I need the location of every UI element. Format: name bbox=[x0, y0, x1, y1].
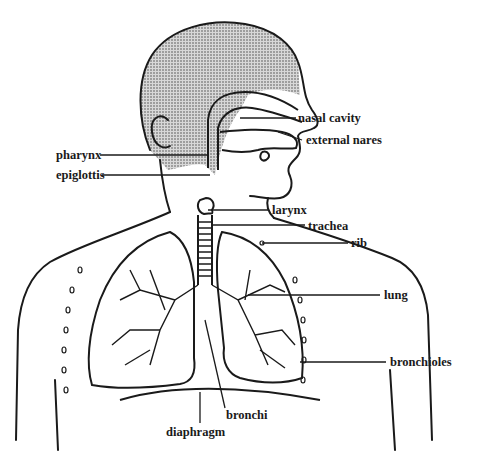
diaphragm bbox=[120, 389, 320, 400]
respiratory-diagram bbox=[0, 0, 486, 466]
lungs bbox=[89, 232, 303, 388]
label-rib: rib bbox=[351, 237, 367, 250]
label-pharynx: pharynx bbox=[56, 149, 101, 162]
label-diaphragm: diaphragm bbox=[166, 426, 225, 439]
label-epiglottis: epiglottis bbox=[56, 169, 105, 182]
trachea bbox=[198, 198, 214, 285]
label-external-nares: external nares bbox=[306, 134, 382, 147]
label-nasal-cavity: nasal cavity bbox=[298, 112, 361, 125]
label-bronchi: bronchi bbox=[226, 409, 267, 422]
label-lung: lung bbox=[384, 289, 408, 302]
bronchial-tree bbox=[112, 270, 295, 368]
leader-lines bbox=[100, 118, 386, 423]
label-bronchioles: bronchioles bbox=[390, 356, 452, 369]
body-outline bbox=[16, 22, 432, 450]
ribs bbox=[62, 241, 306, 393]
label-larynx: larynx bbox=[272, 204, 307, 217]
label-trachea: trachea bbox=[308, 220, 348, 233]
